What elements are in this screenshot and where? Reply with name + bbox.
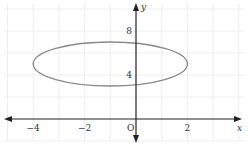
origin-label: O (127, 123, 134, 133)
y-tick-label: 4 (126, 70, 132, 80)
y-axis-label: y (140, 2, 147, 12)
y-tick-label: 8 (126, 26, 132, 36)
x-axis-arrow-right-icon (234, 116, 242, 122)
x-axis-label: x (237, 123, 242, 133)
chart: −4−22 48 x y O (0, 0, 248, 145)
x-tick-label: 2 (185, 123, 191, 133)
y-axis-arrow-up-icon (133, 3, 139, 11)
x-tick-label: −4 (27, 123, 41, 133)
x-tick-labels: −4−22 (27, 123, 191, 133)
y-axis-arrow-down-icon (133, 135, 139, 143)
x-tick-label: −2 (78, 123, 91, 133)
